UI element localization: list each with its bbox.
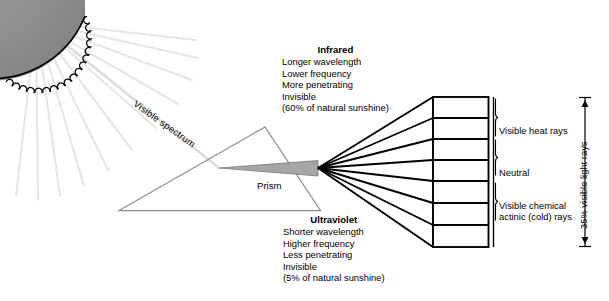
infrared-label-block: Infrared Longer wavelength Lower frequen… <box>282 44 389 113</box>
infrared-line-1: Longer wavelength <box>282 56 389 67</box>
spectrum-band-dividers <box>433 118 489 225</box>
ultraviolet-line-3: Less penetrating <box>283 249 385 260</box>
ultraviolet-label-block: Ultraviolet Shorter wavelength Higher fr… <box>283 214 385 283</box>
ultraviolet-line-1: Shorter wavelength <box>283 226 385 237</box>
infrared-line-5: (60% of natural sunshine) <box>282 102 389 113</box>
infrared-line-3: More penetrating <box>282 79 389 90</box>
infrared-title: Infrared <box>282 44 389 55</box>
infrared-line-4: Invisible <box>282 91 389 102</box>
ultraviolet-line-4: Invisible <box>283 261 385 272</box>
band-label-actinic-line-2: actinic (cold) rays <box>499 211 572 222</box>
band-label-neutral: Neutral <box>499 167 529 178</box>
light-spectrum-diagram: Infrared Longer wavelength Lower frequen… <box>0 0 609 301</box>
ultraviolet-title: Ultraviolet <box>283 214 385 225</box>
prism-label: Prism <box>257 180 282 191</box>
visible-light-rays-measure-label: 35% visible light rays <box>578 141 589 229</box>
prism-refraction-wedge <box>219 161 318 177</box>
ultraviolet-line-2: Higher frequency <box>283 238 385 249</box>
infrared-line-2: Lower frequency <box>282 68 389 79</box>
ultraviolet-line-5: (5% of natural sunshine) <box>283 272 385 283</box>
band-group-braces <box>496 99 499 220</box>
band-label-visible-heat-rays: Visible heat rays <box>499 125 568 136</box>
band-label-visible-chemical-actinic: Visible chemical actinic (cold) rays <box>499 200 572 223</box>
band-label-actinic-line-1: Visible chemical <box>499 200 572 211</box>
